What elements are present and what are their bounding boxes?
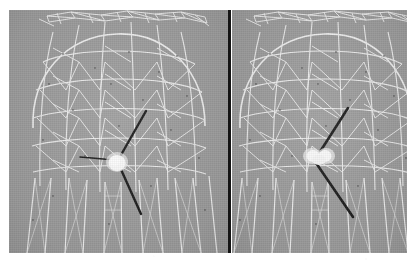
panel-left[interactable] (9, 10, 228, 253)
margin-bottom (0, 253, 416, 267)
panel-right[interactable] (232, 10, 407, 253)
comparison-figure (0, 0, 416, 267)
margin-left (0, 0, 9, 267)
panel-divider (228, 10, 231, 253)
mesh-wireframe-right (232, 10, 407, 253)
bright-blob-right-panel (303, 148, 335, 165)
mesh-wireframe-left (9, 10, 228, 253)
marker-needle-lower-right-left-panel (119, 165, 141, 214)
bright-blob-left-panel (106, 152, 128, 172)
margin-top (0, 0, 416, 10)
marker-needle-lower-right-right-panel (314, 160, 353, 217)
margin-right (407, 0, 416, 267)
